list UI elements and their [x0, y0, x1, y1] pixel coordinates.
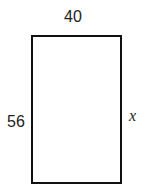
rectangle-shape: [31, 35, 122, 184]
left-side-label: 56: [7, 114, 25, 130]
right-side-label: x: [129, 108, 136, 124]
top-side-label: 40: [64, 9, 82, 25]
